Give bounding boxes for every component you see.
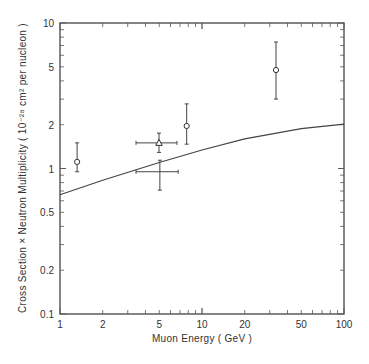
y-tick-label: 0.1 <box>40 309 54 320</box>
data-point <box>136 160 178 190</box>
data-point <box>136 133 177 152</box>
x-tick-label: 50 <box>296 319 308 330</box>
y-tick-labels: 0.10.20.512510 <box>40 18 54 320</box>
data-point <box>273 42 278 99</box>
data-point <box>184 104 189 144</box>
y-tick-label: 1 <box>48 164 54 175</box>
axis-ticks <box>60 23 344 314</box>
y-tick-label: 2 <box>48 120 54 131</box>
y-tick-label: 5 <box>48 62 54 73</box>
x-tick-label: 2 <box>100 319 106 330</box>
y-axis-title: Cross Section × Neutron Multiplicity ( 1… <box>17 23 28 313</box>
plot-frame <box>60 23 344 314</box>
x-tick-label: 100 <box>336 319 353 330</box>
x-tick-label: 20 <box>239 319 251 330</box>
x-tick-label: 10 <box>196 319 208 330</box>
x-tick-labels: 125102050100 <box>57 319 353 330</box>
y-tick-label: 10 <box>43 18 55 29</box>
y-tick-label: 0.5 <box>40 207 54 218</box>
y-tick-label: 0.2 <box>40 265 54 276</box>
chart: 125102050100 0.10.20.512510 Muon Energy … <box>0 0 369 364</box>
data-points <box>75 42 279 190</box>
x-tick-label: 5 <box>156 319 162 330</box>
x-axis-title: Muon Energy ( GeV ) <box>152 333 252 344</box>
x-tick-label: 1 <box>57 319 63 330</box>
theory-curve <box>60 124 344 195</box>
data-point <box>75 143 80 172</box>
